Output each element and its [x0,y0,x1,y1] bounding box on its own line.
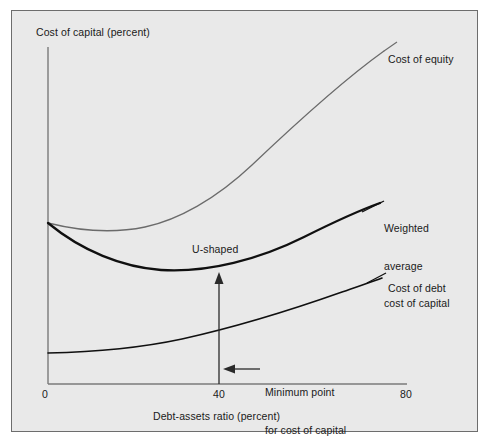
series-label-wacc-line-1: Weighted [384,222,450,235]
series-label-weighted-average-cost-of-capital: Weighted average cost of capital [384,197,450,335]
minimum-point-arrowhead-up [215,272,224,284]
min-point-arrowhead-left [223,365,235,374]
x-tick-label-0: 0 [42,388,48,401]
annotation-minimum-point-line-2: for cost of capital [265,424,346,437]
series-label-wacc-line-3: cost of capital [384,297,450,310]
series-cost-of-debt-curve [48,278,382,353]
series-label-wacc-line-2: average [384,260,450,273]
annotation-u-shaped: U-shaped [192,243,238,256]
annotation-minimum-point-line-1: Minimum point [265,386,346,399]
series-label-cost-of-equity: Cost of equity [388,53,454,66]
series-wacc-curve [48,203,380,270]
series-label-cost-of-debt: Cost of debt [388,282,446,295]
x-tick-label-80: 80 [400,388,412,401]
figure-frame: Cost of capital (percent) Debt-assets ra… [11,10,478,432]
annotation-minimum-point: Minimum point for cost of capital [265,361,346,445]
x-tick-label-40: 40 [213,388,225,401]
series-cost-of-equity-curve [48,51,384,231]
chart-plot-area: Cost of capital (percent) Debt-assets ra… [12,11,477,431]
x-axis-title: Debt-assets ratio (percent) [153,410,280,423]
leader-line-wacc [362,201,384,212]
leader-line-cost-of-equity [384,42,397,51]
y-axis-title: Cost of capital (percent) [36,26,150,39]
